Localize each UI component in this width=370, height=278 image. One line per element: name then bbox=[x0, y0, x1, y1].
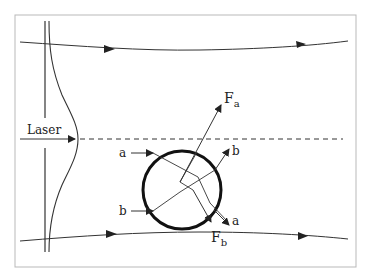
lower-edge-arrow-1 bbox=[106, 230, 117, 238]
ray-a-out-arrow bbox=[214, 210, 229, 225]
optical-trap-diagram: Laser a a b b Fa Fb bbox=[0, 0, 370, 278]
ray-b-path bbox=[153, 170, 215, 211]
lower-edge-arrow-2 bbox=[298, 232, 308, 240]
ray-a-in-label: a bbox=[119, 146, 126, 160]
laser-label: Laser bbox=[27, 123, 61, 137]
ray-b-out-label: b bbox=[232, 144, 240, 158]
ray-a-out-label: a bbox=[232, 214, 239, 228]
force-a-label: Fa bbox=[224, 90, 240, 109]
ray-b-out-arrow bbox=[215, 149, 229, 170]
upper-edge-arrow-2 bbox=[296, 41, 306, 48]
upper-edge-arrow-1 bbox=[104, 45, 115, 53]
ray-b-in-label: b bbox=[119, 204, 127, 218]
force-b-arrow bbox=[193, 190, 211, 222]
force-construct-lines bbox=[180, 152, 197, 190]
sphere bbox=[143, 151, 221, 229]
